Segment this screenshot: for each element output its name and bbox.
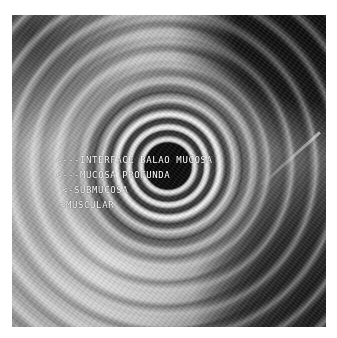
arrow-icon: <--- xyxy=(56,170,80,180)
arrow-icon: <--- xyxy=(56,155,80,165)
annotation-muscular: <MUSCULAR xyxy=(60,200,114,210)
arrow-icon: <- xyxy=(62,185,74,195)
annotation-mucosa-profunda: <---MUCOSA PROFUNDA xyxy=(56,170,170,180)
annotation-interface-balao-mucosa: <---INTERFACE BALAO MUCOSA xyxy=(56,155,212,165)
annotation-submucosa: <-SUBMUCOSA xyxy=(62,185,128,195)
ultrasound-image: <---INTERFACE BALAO MUCOSA <---MUCOSA PR… xyxy=(12,15,326,327)
